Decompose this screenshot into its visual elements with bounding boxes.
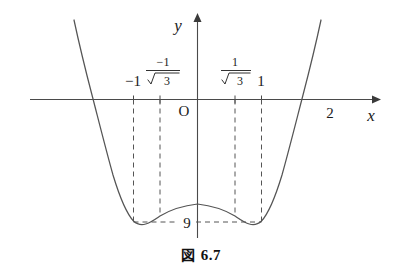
quartic-function-plot: y x O −1 −1 3 1 3 1 2 9 bbox=[0, 0, 402, 250]
figure-caption: 図6.7 bbox=[0, 244, 402, 264]
x-tick-label-pos-inv-sqrt3: 1 3 bbox=[221, 55, 251, 88]
x-axis-arrowhead bbox=[372, 96, 381, 104]
pos-inv-sqrt3-numerator: 1 bbox=[232, 55, 238, 69]
x-axis-label: x bbox=[366, 106, 375, 125]
x-tick-label-neg-one: −1 bbox=[125, 73, 141, 89]
x-tick-label-neg-inv-sqrt3: −1 3 bbox=[146, 55, 180, 88]
caption-label: 図 bbox=[181, 247, 196, 263]
y-value-label-minus-nine: 9 bbox=[183, 215, 191, 231]
caption-number: 6.7 bbox=[201, 247, 221, 263]
x-intercept-label-two: 2 bbox=[326, 105, 334, 121]
neg-inv-sqrt3-numerator: −1 bbox=[157, 55, 170, 69]
x-tick-label-pos-one: 1 bbox=[257, 73, 265, 89]
figure-container: y x O −1 −1 3 1 3 1 2 9 図6.7 bbox=[0, 0, 402, 278]
origin-label: O bbox=[179, 103, 190, 119]
y-axis-label: y bbox=[172, 16, 182, 35]
pos-inv-sqrt3-denominator: 3 bbox=[237, 74, 243, 88]
neg-inv-sqrt3-denominator: 3 bbox=[164, 74, 170, 88]
pos-inv-sqrt3-radical-sign bbox=[222, 73, 250, 84]
y-axis-arrowhead bbox=[194, 13, 202, 22]
